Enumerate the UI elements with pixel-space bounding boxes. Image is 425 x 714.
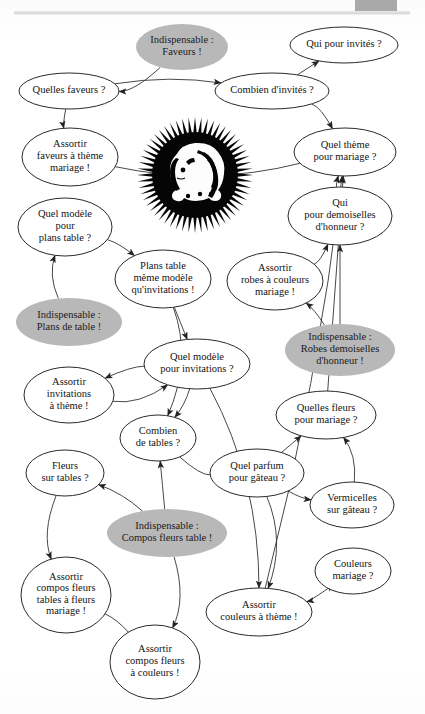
node-label: Combiende tables ? xyxy=(136,426,181,449)
graph-node-assortir_faveurs[interactable]: Assortirfaveurs à thèmemariage ! xyxy=(22,128,118,186)
graph-node-plans_table_modele[interactable]: Plans tablemême modèlequ'invitations ! xyxy=(115,250,211,308)
graph-edge xyxy=(312,104,333,129)
page-canvas: Indispensable :Faveurs !Quelles faveurs … xyxy=(0,0,425,714)
graph-node-quelles_fleurs[interactable]: Quelles fleurspour mariage ? xyxy=(276,391,376,439)
graph-node-combien_tables[interactable]: Combiende tables ? xyxy=(120,415,196,461)
graph-node-quelles_faveurs[interactable]: Quelles faveurs ? xyxy=(19,73,119,109)
graph-node-indisp_plans[interactable]: Indispensable :Plans de table ! xyxy=(16,298,122,346)
node-label: Indispensable :Plans de table ! xyxy=(37,310,101,333)
graph-node-indisp_faveurs[interactable]: Indispensable :Faveurs ! xyxy=(136,24,228,70)
graph-edge xyxy=(180,457,211,475)
graph-edge xyxy=(105,366,144,378)
graph-edge xyxy=(175,389,190,418)
graph-node-indisp_compos[interactable]: Indispensable :Compos fleurs table ! xyxy=(107,509,227,557)
graph-edge xyxy=(107,240,134,256)
graph-edge xyxy=(174,307,187,339)
graph-node-assortir_invitations[interactable]: Assortirinvitationsà thème ! xyxy=(24,367,114,423)
graph-edge xyxy=(52,255,58,298)
node-label: Quel thèmepour mariage ? xyxy=(314,140,377,163)
graph-node-quel_theme[interactable]: Quel thèmepour mariage ? xyxy=(294,128,396,176)
graph-node-vermicelles[interactable]: Vermicellessur gâteau ? xyxy=(310,482,394,528)
graph-edge xyxy=(113,385,168,402)
node-label: Combien d'invités ? xyxy=(230,84,314,95)
graph-node-qui_demoiselles[interactable]: Quipour demoisellesd'honneur ? xyxy=(288,187,392,245)
graph-node-quel_parfum[interactable]: Quel parfumpour gâteau ? xyxy=(210,449,304,497)
graph-edge xyxy=(288,491,311,500)
node-label: Qui pour invités ? xyxy=(306,38,382,49)
node-label: Assortirinvitationsà thème ! xyxy=(47,377,91,411)
graph-edge xyxy=(173,557,181,628)
graph-node-quel_modele_invit[interactable]: Quel modèlepour invitations ? xyxy=(144,339,250,389)
graph-edge xyxy=(99,485,143,511)
graph-node-combien_invites[interactable]: Combien d'invités ? xyxy=(215,73,329,109)
graph-edge xyxy=(344,438,355,483)
graph-node-assortir_couleurs[interactable]: Assortircouleurs à thème ! xyxy=(206,588,312,636)
graph-edge xyxy=(47,495,56,559)
graph-edge xyxy=(160,461,165,509)
graph-node-quel_modele_plans[interactable]: Quel modèlepourplans table ? xyxy=(18,198,112,256)
graph-node-qui_invites[interactable]: Qui pour invités ? xyxy=(290,27,398,63)
graph-edge xyxy=(336,176,338,187)
graph-node-assortir_compos_coul[interactable]: Assortircompos fleursà couleurs ! xyxy=(110,625,200,699)
graph-node-couleurs_mariage[interactable]: Couleursmariage ? xyxy=(315,548,391,594)
node-label: Quel parfumpour gâteau ? xyxy=(229,461,286,484)
graph-edge xyxy=(105,614,128,632)
node-label: Plans tablemême modèlequ'invitations ! xyxy=(132,261,195,295)
graph-edge xyxy=(64,109,66,128)
graph-node-indisp_robes[interactable]: Indispensable :Robes demoisellesd'honneu… xyxy=(285,324,395,376)
node-label: Quel modèlepour invitations ? xyxy=(160,352,234,375)
node-label: Vermicellessur gâteau ? xyxy=(327,493,377,516)
graph-edge xyxy=(307,588,328,601)
question-graph: Indispensable :Faveurs !Quelles faveurs … xyxy=(0,0,425,714)
graph-edge xyxy=(115,79,221,84)
node-label: Couleursmariage ? xyxy=(332,559,373,582)
graph-edge xyxy=(281,436,301,453)
graph-node-assortir_compos_tables[interactable]: Assortircompos fleurstables à fleursmari… xyxy=(21,557,111,633)
graph-node-assortir_robes[interactable]: Assortirrobes à couleursmariage ! xyxy=(227,252,323,310)
graph-edge xyxy=(297,61,319,75)
node-label: Quelles faveurs ? xyxy=(33,84,106,95)
graph-node-fleurs_sur_tables[interactable]: Fleurssur tables ? xyxy=(26,450,104,496)
node-label: Quelles fleurspour mariage ? xyxy=(295,403,358,426)
sunburst-face-emblem xyxy=(137,117,253,233)
graph-edge xyxy=(314,244,328,264)
